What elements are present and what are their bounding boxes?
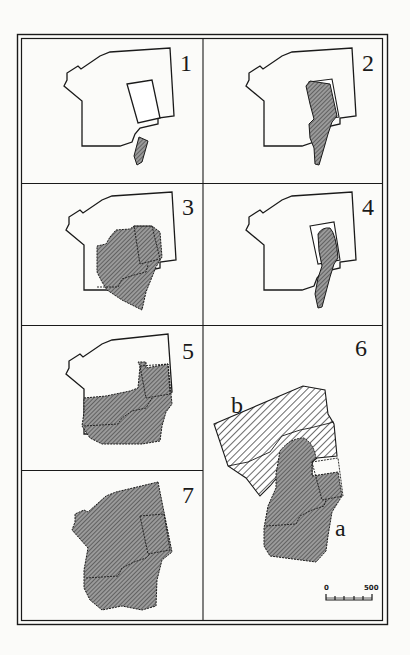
panel-7: 7 bbox=[72, 482, 194, 610]
hatched-area bbox=[315, 228, 338, 308]
panel-label-1: 1 bbox=[180, 50, 192, 76]
panel-label-2: 2 bbox=[362, 50, 374, 76]
rectangle-parcel bbox=[127, 80, 160, 123]
panel-2: 2 bbox=[246, 48, 374, 165]
panel-label-3: 3 bbox=[182, 194, 194, 220]
map-figure: 1 2 3 4 5 7 bbox=[0, 0, 410, 655]
hatched-strip bbox=[134, 137, 148, 165]
panel-1: 1 bbox=[64, 48, 192, 165]
hatched-area bbox=[82, 362, 172, 444]
panel-label-5: 5 bbox=[182, 338, 194, 364]
area-label-a: a bbox=[335, 515, 346, 541]
panel-label-6: 6 bbox=[355, 335, 367, 361]
panel-4: 4 bbox=[246, 192, 374, 308]
scale-bar: 0 500 bbox=[324, 584, 379, 600]
panel-label-7: 7 bbox=[182, 482, 194, 508]
scale-end-label: 500 bbox=[364, 584, 379, 592]
hatched-area bbox=[306, 81, 337, 165]
panel-3: 3 bbox=[66, 192, 194, 310]
panel-5: 5 bbox=[66, 334, 194, 444]
panel-6: 6 b a bbox=[214, 335, 367, 562]
hatched-area bbox=[72, 482, 172, 610]
scale-start-label: 0 bbox=[324, 584, 329, 592]
hatched-area bbox=[97, 226, 162, 310]
panel-label-4: 4 bbox=[362, 194, 374, 220]
area-label-b: b bbox=[231, 392, 243, 418]
